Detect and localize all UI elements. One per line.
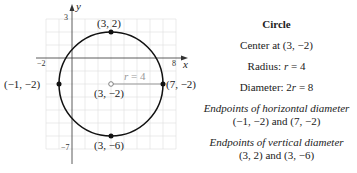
info-horizontal-heading: Endpoints of horizontal diameter [196,102,357,115]
radius-label-value: = 4 [128,70,145,82]
info-diameter-value: = 8 [296,81,313,93]
info-diameter-prefix: Diameter: 2 [240,81,292,93]
info-horizontal-points: (−1, −2) and (7, −2) [196,115,357,128]
info-vertical-heading: Endpoints of vertical diameter [196,136,357,149]
label-point-right: (7, −2) [166,78,196,90]
label-point-top: (3, 2) [97,17,121,29]
point-left [57,82,62,87]
info-diameter: Diameter: 2r = 8 [196,81,357,94]
tick-x-min: −2 [37,59,46,68]
info-radius-value: = 4 [288,60,305,72]
label-point-left: (−1, −2) [4,78,40,90]
info-center: Center at (3, −2) [196,39,357,52]
y-axis-arrow-icon [70,4,75,11]
radius-label: r = 4 [124,70,146,82]
info-radius-prefix: Radius: [248,60,284,72]
label-point-center: (3, −2) [94,87,124,99]
info-radius: Radius: r = 4 [196,60,357,73]
tick-x-max: 8 [172,59,176,68]
label-point-bottom: (3, −6) [94,139,124,151]
point-bottom [109,134,114,139]
info-vertical-points: (3, 2) and (3, −6) [196,149,357,162]
x-axis-label: x [183,58,188,70]
point-right [161,82,166,87]
circle-info-panel: Circle Center at (3, −2) Radius: r = 4 D… [196,18,357,162]
tick-y-min: −7 [61,143,70,152]
y-axis-label: y [76,0,81,12]
point-center [109,82,114,87]
info-title: Circle [196,18,357,31]
point-top [109,30,114,35]
tick-y-max: 3 [64,13,68,22]
